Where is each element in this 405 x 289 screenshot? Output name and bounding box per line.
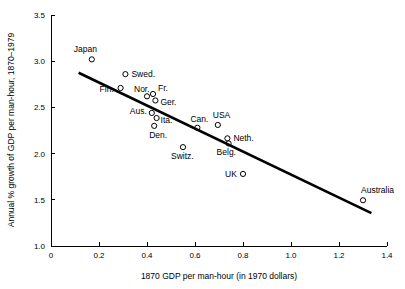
data-point-marker [180,145,185,150]
y-tick-label: 2.5 [34,103,46,112]
data-point-label: Neth. [233,133,253,143]
scatter-plot-figure: 1.01.52.02.53.03.5 00.20.40.60.81.01.21.… [0,0,405,289]
y-tick-label: 3.5 [34,11,46,20]
data-point-marker [123,72,128,77]
plot-canvas: 1.01.52.02.53.03.5 00.20.40.60.81.01.21.… [0,0,405,289]
regression-line [79,73,372,213]
data-point-marker [149,110,154,115]
data-point-label: Switz. [171,151,194,161]
data-point-label: UK [225,169,237,179]
x-axis-title: 1870 GDP per man-hour (in 1970 dollars) [141,271,297,281]
data-point-label: Den. [149,130,167,140]
x-tick-label: 0.4 [141,251,153,260]
data-point-marker [89,57,94,62]
x-axis: 00.20.40.60.81.01.21.4 [49,242,393,260]
y-axis: 1.01.52.02.53.03.5 [34,11,55,251]
data-points: JapanSwed.Fin.Nor.Fr.Ger.Aus.Ita.Den.Swi… [74,44,395,203]
x-tick-label: 1.0 [285,251,297,260]
data-point-marker [154,115,159,120]
y-tick-label: 1.5 [34,196,46,205]
y-tick-label: 3.0 [34,57,46,66]
data-point-label: Can. [190,114,208,124]
x-tick-label: 0.2 [93,251,105,260]
y-tick-label: 1.0 [34,242,46,251]
x-tick-label: 0.8 [237,251,249,260]
data-point-marker [152,123,157,128]
data-point-marker [225,136,230,141]
data-point-label: Australia [361,185,394,195]
x-tick-label: 1.4 [381,251,393,260]
data-point-label: Fr. [158,83,168,93]
data-point-label: Japan [74,44,97,54]
data-point-marker [118,85,123,90]
data-point-marker [153,98,158,103]
data-point-marker [360,198,365,203]
x-tick-label: 0.6 [189,251,201,260]
data-point-marker [215,122,220,127]
data-point-marker [144,94,149,99]
x-tick-label: 1.2 [333,251,345,260]
data-point-label: USA [213,110,231,120]
data-point-label: Swed. [131,69,155,79]
x-tick-label: 0 [49,251,54,260]
data-point-label: Ger. [160,97,176,107]
y-tick-label: 2.0 [34,150,46,159]
data-point-label: Belg. [217,147,236,157]
data-point-marker [150,91,155,96]
data-point-label: Ita. [161,115,173,125]
data-point-marker [240,171,245,176]
data-point-label: Fin. [100,84,114,94]
data-point-label: Nor. [134,84,150,94]
data-point-label: Aus. [130,106,147,116]
y-axis-title: Annual % growth of GDP per man-hour, 187… [6,32,16,227]
trend-line [79,73,372,213]
